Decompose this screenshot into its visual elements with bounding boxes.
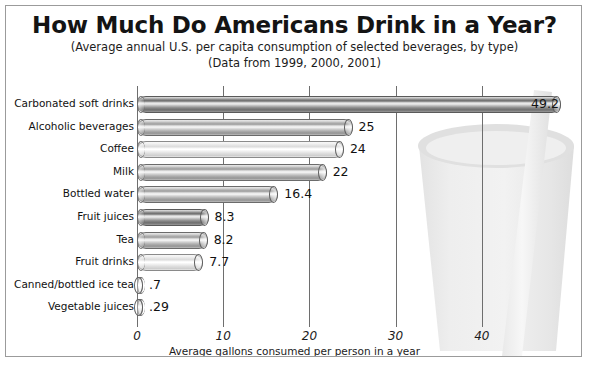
bar-value-label: 49.2 [531, 94, 559, 113]
x-axis-title: Average gallons consumed per person in a… [6, 345, 582, 357]
category-label: Bottled water [6, 184, 134, 202]
bar-container [137, 186, 278, 203]
bar-row: Milk22 [6, 162, 582, 184]
bar-container [137, 299, 143, 316]
category-label: Tea [6, 230, 134, 248]
bar-row: Fruit drinks7.7 [6, 252, 582, 274]
bar-value-label: .7 [149, 275, 161, 294]
category-label: Coffee [6, 139, 134, 157]
bar-row: Fruit juices8.3 [6, 207, 582, 229]
bar-value-label: 24 [350, 139, 366, 158]
bar [137, 96, 561, 113]
bar [137, 277, 143, 294]
bar-container [137, 141, 344, 158]
bar [137, 232, 208, 249]
x-tick-label-10: 10 [216, 329, 231, 343]
category-label: Vegetable juices [6, 297, 134, 315]
category-label: Canned/bottled ice tea [6, 275, 134, 293]
bar-value-label: 22 [333, 162, 349, 181]
bar-container [137, 277, 143, 294]
x-tick-label-20: 20 [302, 329, 317, 343]
x-tick-label-40: 40 [474, 329, 489, 343]
bar-container [137, 254, 203, 271]
x-tick-label-30: 30 [388, 329, 403, 343]
bar-container [137, 232, 208, 249]
bar-container [137, 209, 209, 226]
bar [137, 119, 353, 136]
bar [137, 299, 143, 316]
bar-value-label: .29 [149, 297, 169, 316]
bar [137, 186, 278, 203]
bar-row: Alcoholic beverages25 [6, 117, 582, 139]
chart-title: How Much Do Americans Drink in a Year? [6, 12, 582, 38]
bar [137, 141, 344, 158]
bar-value-label: 8.2 [214, 230, 234, 249]
category-label: Fruit juices [6, 207, 134, 225]
chart-frame: How Much Do Americans Drink in a Year? (… [5, 5, 582, 357]
category-label: Carbonated soft drinks [6, 94, 134, 112]
bar [137, 209, 209, 226]
bar-row: Tea8.2 [6, 230, 582, 252]
bar-row: Coffee24 [6, 139, 582, 161]
bar-value-label: 16.4 [284, 184, 312, 203]
bar-value-label: 25 [359, 117, 375, 136]
bar-row: Bottled water16.4 [6, 184, 582, 206]
bar [137, 164, 327, 181]
bar-value-label: 7.7 [209, 252, 229, 271]
x-tick-label-0: 0 [133, 329, 141, 343]
bar-row: Vegetable juices.29 [6, 297, 582, 319]
bar-container [137, 164, 327, 181]
chart-subtitle-1: (Average annual U.S. per capita consumpt… [6, 40, 582, 54]
bar-row: Canned/bottled ice tea.7 [6, 275, 582, 297]
bar-row: Carbonated soft drinks49.2 [6, 94, 582, 116]
bar-value-label: 8.3 [215, 207, 235, 226]
bar-container [137, 119, 353, 136]
category-label: Milk [6, 162, 134, 180]
plot-area: Carbonated soft drinks49.2Alcoholic beve… [6, 76, 582, 326]
chart-subtitle-2: (Data from 1999, 2000, 2001) [6, 56, 582, 70]
category-label: Fruit drinks [6, 252, 134, 270]
bar-container [137, 96, 561, 113]
bar [137, 254, 203, 271]
category-label: Alcoholic beverages [6, 117, 134, 135]
